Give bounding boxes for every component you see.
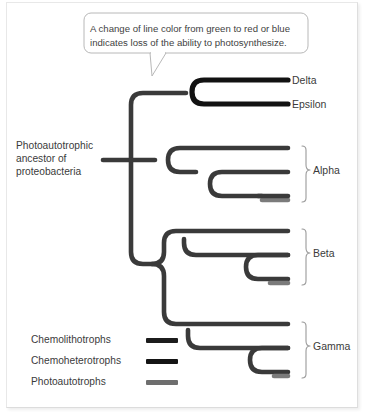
branch-to-lower-clade [131, 160, 152, 264]
callout-text-line1: A change of line color from green to red… [90, 22, 302, 36]
fork-alpha-inner [210, 172, 288, 196]
bracket-beta [302, 229, 310, 285]
fork-beta-inner [246, 255, 288, 279]
callout-text: A change of line color from green to red… [90, 22, 302, 49]
legend-item-photoautotrophs: Photoautotrophs [31, 375, 186, 396]
tip-label-delta: Delta [292, 74, 317, 86]
branch-to-gamma [152, 264, 288, 324]
callout-text-line2: indicates loss of the ability to photosy… [90, 36, 302, 50]
legend: Chemolithotrophs Chemoheterotrophs Photo… [31, 333, 186, 396]
ancestor-label: Photoautotrophic ancestor of proteobacte… [16, 140, 102, 178]
ancestor-label-line2: ancestor of [16, 153, 102, 166]
branch-beta-mid [184, 239, 288, 255]
bracket-gamma [302, 322, 310, 378]
fork-delta-epsilon [192, 80, 288, 104]
figure-phylogenetic-tree: .br { fill: none; stroke-linecap: round;… [0, 0, 367, 418]
legend-swatch-chemoheterotrophs [146, 359, 178, 364]
legend-swatch-photoautotrophs [146, 380, 178, 385]
legend-item-chemolithotrophs: Chemolithotrophs [31, 333, 186, 354]
fork-alpha-outer [168, 148, 288, 172]
group-label-alpha: Alpha [313, 164, 340, 176]
tip-label-epsilon: Epsilon [292, 98, 327, 110]
ancestor-label-line1: Photoautotrophic [16, 140, 102, 153]
legend-item-chemoheterotrophs: Chemoheterotrophs [31, 354, 186, 375]
legend-swatch-chemolithotrophs [146, 338, 178, 343]
branch-to-beta [152, 231, 288, 264]
callout-pointer [150, 53, 166, 76]
legend-label-chemoheterotrophs: Chemoheterotrophs [31, 355, 121, 366]
legend-label-photoautotrophs: Photoautotrophs [31, 376, 106, 387]
bracket-alpha [302, 146, 310, 202]
branch-gamma-mid [188, 330, 288, 348]
legend-label-chemolithotrophs: Chemolithotrophs [31, 334, 111, 345]
group-label-beta: Beta [313, 247, 335, 259]
ancestor-label-line3: proteobacteria [16, 166, 102, 179]
group-label-gamma: Gamma [313, 340, 351, 352]
fork-gamma-inner [250, 348, 288, 372]
